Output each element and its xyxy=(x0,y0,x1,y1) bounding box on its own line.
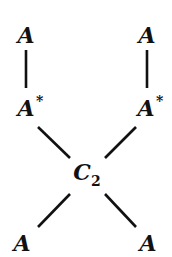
node-mid-right: A * xyxy=(135,93,164,121)
node-bottom-left: A xyxy=(11,230,30,256)
superscript-star: * xyxy=(36,93,44,109)
svg-text:A: A xyxy=(135,95,154,121)
node-top-right: A xyxy=(136,22,155,48)
edge-center-to-bottom-left xyxy=(38,194,70,227)
edge-mid-right-to-center xyxy=(105,127,136,158)
superscript-star: * xyxy=(156,93,164,109)
hasse-diagram: A A A * A * C 2 A A xyxy=(0,0,172,257)
node-bottom-right: A xyxy=(137,230,156,256)
svg-text:A: A xyxy=(15,95,34,121)
svg-text:C: C xyxy=(73,159,91,185)
node-mid-left: A * xyxy=(15,93,44,121)
edge-mid-left-to-center xyxy=(38,127,70,158)
node-top-left: A xyxy=(15,22,34,48)
node-center: C 2 xyxy=(73,159,101,189)
edge-center-to-bottom-right xyxy=(105,194,136,227)
subscript-two: 2 xyxy=(91,173,101,189)
